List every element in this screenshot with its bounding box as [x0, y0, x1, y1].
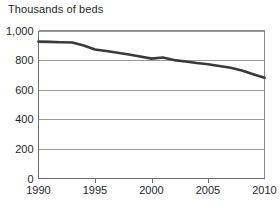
x-tick-label: 2000	[139, 184, 163, 196]
y-axis-tick-labels: 02004006008001,000	[6, 25, 34, 185]
y-tick-label: 400	[15, 113, 33, 125]
x-tick-label: 1990	[26, 184, 50, 196]
chart-container: Thousands of beds 02004006008001,000 199…	[0, 0, 280, 217]
plot-frame	[39, 31, 265, 179]
gridlines	[39, 32, 265, 150]
y-tick-label: 1,000	[6, 25, 34, 37]
y-tick-label: 600	[15, 84, 33, 96]
data-series-group	[39, 42, 265, 78]
x-axis-tick-marks	[96, 179, 209, 183]
x-tick-label: 2005	[196, 184, 220, 196]
x-tick-label: 2010	[252, 184, 276, 196]
data-line-series-0	[39, 42, 265, 78]
y-tick-label: 800	[15, 54, 33, 66]
x-axis-tick-labels: 19901995200020052010	[26, 184, 276, 196]
line-chart-plot: 02004006008001,000 19901995200020052010	[0, 0, 280, 217]
y-tick-label: 200	[15, 143, 33, 155]
x-tick-label: 1995	[83, 184, 107, 196]
